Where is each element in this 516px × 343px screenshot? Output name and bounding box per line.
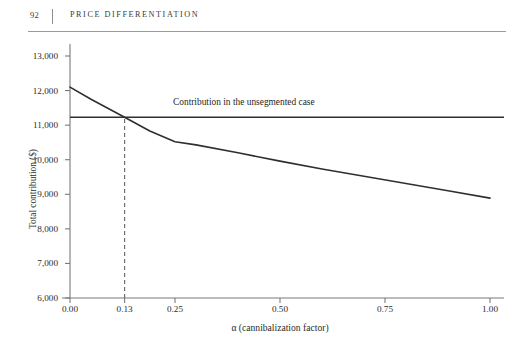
running-title: PRICE DIFFERENTIATION [70, 10, 199, 19]
page-canvas: 92 PRICE DIFFERENTIATION Total contribut… [0, 0, 516, 343]
page-number: 92 [30, 10, 39, 20]
axes-layer [62, 44, 504, 303]
segmented-contribution-curve [70, 87, 490, 198]
folio-divider [52, 9, 53, 24]
header-rule [28, 31, 506, 32]
plot-area [0, 34, 516, 343]
series-layer [70, 87, 504, 198]
chart-figure: Total contribution ($) α (cannibalizatio… [0, 34, 516, 343]
